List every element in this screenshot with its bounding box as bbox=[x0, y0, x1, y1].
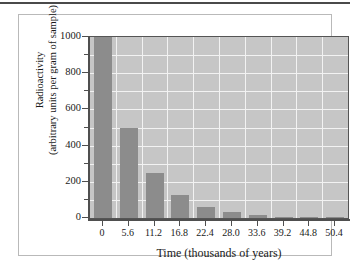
x-axis-tick bbox=[283, 221, 284, 226]
figure-container: 10008006004002000 05.611.216.822.428.033… bbox=[18, 14, 332, 256]
bar bbox=[249, 215, 267, 218]
y-axis-tick-minor bbox=[84, 163, 89, 164]
y-axis-title-line2: (arbitrary units per gram of sample) bbox=[46, 0, 59, 170]
bar bbox=[326, 217, 344, 218]
y-axis-tick-minor bbox=[84, 199, 89, 200]
bar bbox=[94, 37, 112, 218]
y-axis-tick-label: 200 bbox=[41, 176, 81, 186]
plot-area bbox=[89, 36, 349, 219]
y-axis-tick bbox=[82, 108, 89, 109]
x-axis-tick bbox=[154, 221, 155, 226]
x-axis-tick bbox=[205, 221, 206, 226]
bar bbox=[300, 217, 318, 218]
y-axis-tick bbox=[82, 72, 89, 73]
x-axis-tick bbox=[308, 221, 309, 226]
y-axis-tick bbox=[82, 145, 89, 146]
x-axis-title: Time (thousands of years) bbox=[89, 246, 349, 261]
y-axis-tick-minor bbox=[84, 127, 89, 128]
y-axis-tick-minor bbox=[84, 90, 89, 91]
bar bbox=[171, 195, 189, 218]
bar bbox=[223, 212, 241, 218]
y-axis-tick bbox=[82, 181, 89, 182]
bar-series bbox=[90, 37, 348, 218]
x-axis-tick bbox=[128, 221, 129, 226]
y-axis-title: Radioactivity (arbitrary units per gram … bbox=[33, 0, 59, 170]
x-axis-tick bbox=[257, 221, 258, 226]
y-axis-line bbox=[88, 36, 90, 220]
bar bbox=[146, 173, 164, 218]
x-axis-tick-label: 50.4 bbox=[314, 227, 350, 238]
y-axis-tick-label: 0 bbox=[41, 212, 81, 222]
bar bbox=[275, 217, 293, 218]
x-axis-tick bbox=[102, 221, 103, 226]
x-axis-tick bbox=[334, 221, 335, 226]
y-axis-title-line1: Radioactivity bbox=[33, 0, 46, 170]
bar bbox=[197, 207, 215, 218]
y-axis-tick bbox=[82, 217, 89, 218]
bar bbox=[120, 128, 138, 219]
x-axis-tick bbox=[179, 221, 180, 226]
y-axis-tick-minor bbox=[84, 54, 89, 55]
x-axis-tick bbox=[231, 221, 232, 226]
y-axis-tick bbox=[82, 36, 89, 37]
